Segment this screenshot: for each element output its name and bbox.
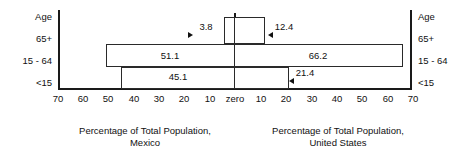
callout-mexico-65plus: 3.8 [192,22,220,32]
callout-value-12-4: 12.4 [269,22,299,32]
right-vertical-axis [410,10,412,90]
bar-value-mexico-under15: 45.1 [128,72,228,82]
bar-value-mexico-15-64: 51.1 [115,51,225,61]
tick-zero: zero [221,94,249,104]
tick-left-50: 50 [96,94,120,104]
tick-left-40: 40 [122,94,146,104]
right-row-label-under15: <15 [418,78,468,88]
tick-left-70: 70 [46,94,70,104]
caption-mexico: Percentage of Total Population, Mexico [50,125,240,149]
callout-value-21-4: 21.4 [290,68,320,78]
tick-right-70: 70 [401,94,425,104]
tick-right-20: 20 [274,94,298,104]
callout-value-3-8: 3.8 [192,22,220,32]
caption-mexico-line1: Percentage of Total Population, [79,125,211,136]
left-row-label-under15: <15 [8,78,52,88]
tick-right-50: 50 [350,94,374,104]
tick-left-10: 10 [198,94,222,104]
right-row-label-15-64: 15 - 64 [418,56,470,66]
caption-united-states: Percentage of Total Population, United S… [243,125,433,149]
tick-right-10: 10 [249,94,273,104]
tick-right-30: 30 [300,94,324,104]
left-row-label-15-64: 15 - 64 [0,56,52,66]
bar-value-us-15-64: 66.2 [248,51,388,61]
bar-us-under15 [234,67,289,89]
tick-right-60: 60 [376,94,400,104]
callout-us-65plus: 12.4 [269,22,299,32]
left-row-label-65plus: 65+ [8,34,52,44]
right-row-label-65plus: 65+ [418,34,468,44]
caption-us-line2: United States [309,137,366,148]
caption-mexico-line2: Mexico [130,137,160,148]
tick-left-30: 30 [147,94,171,104]
bar-us-65plus [234,17,265,44]
right-axis-header: Age [418,12,468,22]
left-vertical-axis [58,10,60,90]
caption-us-line1: Percentage of Total Population, [272,125,404,136]
tick-left-20: 20 [172,94,196,104]
left-axis-header: Age [8,12,52,22]
population-pyramid-chart: Age 65+ 15 - 64 <15 Age 65+ 15 - 64 <15 … [0,0,471,157]
tick-left-60: 60 [71,94,95,104]
callout-us-under15: 21.4 [290,68,320,78]
tick-right-40: 40 [325,94,349,104]
